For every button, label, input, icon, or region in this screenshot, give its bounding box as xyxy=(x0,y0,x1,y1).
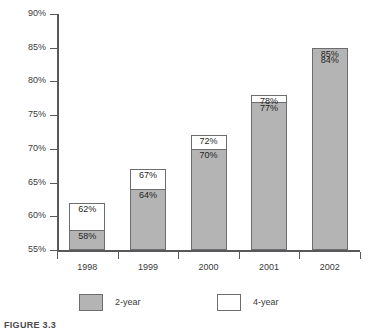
x-axis-line xyxy=(57,250,360,252)
x-tick-label-1998: 1998 xyxy=(59,262,115,272)
figure-container: 55%60%65%70%75%80%85%90% 199819992000200… xyxy=(0,0,372,329)
legend-swatch-4-year xyxy=(217,294,241,311)
bar-group-2000[interactable]: 72%70% xyxy=(191,14,227,250)
legend-item-2-year[interactable]: 2-year xyxy=(79,292,141,312)
bar-value-label-4-year-1998: 62% xyxy=(69,204,105,214)
bar-2-year-2002[interactable] xyxy=(312,48,348,250)
x-tick-label-1999: 1999 xyxy=(120,262,176,272)
x-tick-label-2000: 2000 xyxy=(181,262,237,272)
y-tick-label-80: 80% xyxy=(6,75,46,85)
bar-value-label-4-year-1999: 67% xyxy=(130,170,166,180)
x-tick-1 xyxy=(118,252,119,259)
y-tick-label-90: 90% xyxy=(6,8,46,18)
y-tick-label-55: 55% xyxy=(6,244,46,254)
legend-item-4-year[interactable]: 4-year xyxy=(217,292,279,312)
bar-value-label-4-year-2002: 84% xyxy=(312,55,348,65)
y-tick-label-65: 65% xyxy=(6,177,46,187)
bar-group-1998[interactable]: 62%58% xyxy=(69,14,105,250)
bar-group-2002[interactable]: 85%84% xyxy=(312,14,348,250)
chart-legend: 2-year4-year xyxy=(57,292,360,314)
bar-2-year-2000[interactable] xyxy=(191,149,227,250)
bar-2-year-2001[interactable] xyxy=(251,102,287,250)
legend-label-4-year: 4-year xyxy=(253,297,279,307)
x-tick-label-2001: 2001 xyxy=(241,262,297,272)
bar-value-label-4-year-2000: 72% xyxy=(191,136,227,146)
legend-label-2-year: 2-year xyxy=(115,297,141,307)
y-tick-label-60: 60% xyxy=(6,210,46,220)
y-tick-label-75: 75% xyxy=(6,109,46,119)
legend-swatch-2-year xyxy=(79,294,103,311)
x-tick-4 xyxy=(299,252,300,259)
bar-value-label-2-year-2001: 77% xyxy=(251,103,287,113)
x-tick-2 xyxy=(178,252,179,259)
bar-group-1999[interactable]: 67%64% xyxy=(130,14,166,250)
y-tick-label-70: 70% xyxy=(6,143,46,153)
bar-value-label-2-year-1999: 64% xyxy=(130,190,166,200)
bar-value-label-2-year-2000: 70% xyxy=(191,150,227,160)
y-tick-label-85: 85% xyxy=(6,42,46,52)
x-tick-3 xyxy=(239,252,240,259)
x-tick-5 xyxy=(360,252,361,259)
figure-caption: FIGURE 3.3 xyxy=(4,320,56,329)
plot-area: 62%58%67%64%72%70%78%77%85%84% xyxy=(57,14,360,250)
x-tick-label-2002: 2002 xyxy=(302,262,358,272)
bar-value-label-2-year-1998: 58% xyxy=(69,231,105,241)
bar-group-2001[interactable]: 78%77% xyxy=(251,14,287,250)
x-tick-0 xyxy=(57,252,58,259)
y-tick-55 xyxy=(50,250,58,251)
